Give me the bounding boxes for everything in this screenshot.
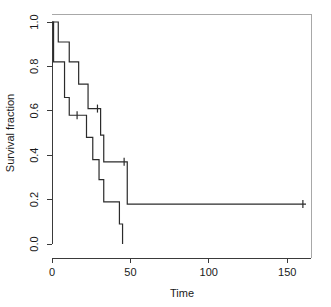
y-tick-label-06: 0.6 bbox=[28, 103, 40, 118]
y-tick-label-04: 0.4 bbox=[28, 148, 40, 163]
y-tick-label-02: 0.2 bbox=[28, 192, 40, 207]
kaplan-meier-chart: 1.0 0.8 0.6 0.4 0.2 0.0 Survival fractio… bbox=[0, 0, 331, 307]
survival-plot-figure: 1.0 0.8 0.6 0.4 0.2 0.0 Survival fractio… bbox=[0, 0, 331, 307]
y-tick-label-1: 1.0 bbox=[28, 14, 40, 29]
x-tick-label-100: 100 bbox=[200, 266, 218, 278]
x-tick-label-0: 0 bbox=[49, 266, 55, 278]
y-tick-label-00: 0.0 bbox=[28, 236, 40, 251]
x-tick-label-50: 50 bbox=[124, 266, 136, 278]
y-tick-label-08: 0.8 bbox=[28, 59, 40, 74]
y-axis-title: Survival fraction bbox=[4, 94, 16, 172]
chart-background bbox=[0, 0, 331, 307]
x-tick-label-150: 150 bbox=[278, 266, 296, 278]
x-axis-title: Time bbox=[170, 287, 194, 299]
